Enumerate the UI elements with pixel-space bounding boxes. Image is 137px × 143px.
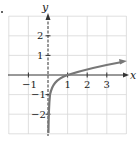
x-axis-label: x xyxy=(130,69,137,82)
y-tick-m1: −1 xyxy=(31,89,46,100)
log-curve xyxy=(48,62,122,133)
figure-bullet xyxy=(1,11,3,13)
x-tick-2: 2 xyxy=(84,79,90,90)
x-tick-3: 3 xyxy=(104,79,110,90)
y-tick-2: 2 xyxy=(37,30,43,41)
y-tick-m2: −2 xyxy=(31,109,46,120)
log-graph: x y −1 1 2 3 2 1 −1 −2 xyxy=(0,0,137,143)
curve-arrow-icon xyxy=(119,59,127,65)
y-axis-label: y xyxy=(41,1,49,14)
x-tick-1: 1 xyxy=(65,79,71,90)
y-tick-1: 1 xyxy=(37,50,43,61)
